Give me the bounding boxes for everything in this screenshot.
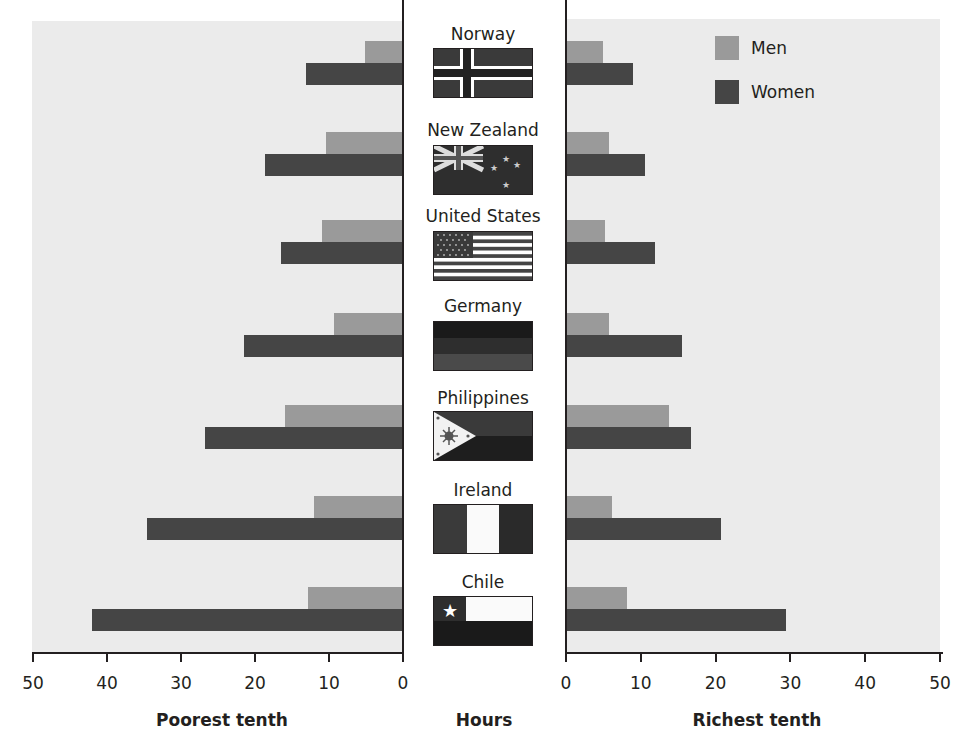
poorest-tenth-axis-title: Poorest tenth (156, 710, 288, 730)
bar-norway-poorest-men (365, 41, 403, 63)
bar-norway-richest-women (566, 63, 633, 85)
tick-mark (789, 652, 791, 662)
tick-mark (32, 652, 34, 662)
bar-ireland-poorest-women (147, 518, 403, 540)
bar-united-states-richest-women (566, 242, 655, 264)
svg-text:★: ★ (502, 180, 510, 190)
bar-new-zealand-richest-women (566, 154, 645, 176)
tick-label: 10 (309, 673, 349, 693)
bar-germany-richest-women (566, 335, 682, 357)
bar-new-zealand-poorest-men (326, 132, 403, 154)
bar-norway-poorest-women (306, 63, 403, 85)
ireland-flag-icon (433, 504, 533, 554)
country-label-germany: Germany (418, 296, 548, 316)
tick-mark (180, 652, 182, 662)
new-zealand-flag-icon: ★★★★ (433, 145, 533, 195)
tick-mark (565, 652, 567, 662)
bar-germany-richest-men (566, 313, 609, 335)
left-x-axis (34, 652, 404, 654)
svg-text:★: ★ (442, 600, 458, 621)
tick-label: 0 (383, 673, 423, 693)
tick-label: 20 (235, 673, 275, 693)
bar-ireland-richest-women (566, 518, 721, 540)
tick-label: 10 (621, 673, 661, 693)
tick-mark (939, 652, 941, 662)
tick-mark (254, 652, 256, 662)
tick-label: 50 (920, 673, 960, 693)
legend-swatch-women (715, 80, 739, 104)
legend-item-men: Men (715, 36, 787, 60)
svg-text:★: ★ (502, 154, 510, 164)
bar-chile-poorest-women (92, 609, 403, 631)
country-label-chile: Chile (418, 572, 548, 592)
tick-label: 0 (546, 673, 586, 693)
bar-united-states-poorest-women (281, 242, 403, 264)
richest-tenth-axis-title: Richest tenth (693, 710, 822, 730)
tick-label: 50 (13, 673, 53, 693)
right-x-axis (565, 652, 943, 654)
legend-label-women: Women (751, 82, 815, 102)
bar-germany-poorest-women (244, 335, 403, 357)
bar-germany-poorest-men (334, 313, 403, 335)
tick-label: 20 (696, 673, 736, 693)
legend-label-men: Men (751, 38, 787, 58)
legend-item-women: Women (715, 80, 815, 104)
bar-philippines-poorest-men (285, 405, 403, 427)
legend-swatch-men (715, 36, 739, 60)
bar-chile-richest-men (566, 587, 627, 609)
svg-text:★: ★ (513, 160, 521, 170)
bar-chile-poorest-men (308, 587, 403, 609)
tick-mark (328, 652, 330, 662)
chile-flag-icon: ★ (433, 596, 533, 646)
bar-united-states-poorest-men (322, 220, 403, 242)
bar-philippines-richest-women (566, 427, 691, 449)
tick-mark (640, 652, 642, 662)
bar-ireland-richest-men (566, 496, 612, 518)
tick-label: 30 (161, 673, 201, 693)
country-label-ireland: Ireland (418, 480, 548, 500)
tick-mark (864, 652, 866, 662)
hours-axis-title: Hours (456, 710, 513, 730)
country-label-norway: Norway (418, 24, 548, 44)
right-panel-zero-axis (565, 0, 567, 662)
svg-text:★: ★ (490, 163, 498, 173)
tick-mark (715, 652, 717, 662)
bar-philippines-richest-men (566, 405, 669, 427)
country-label-united-states: United States (418, 206, 548, 226)
country-label-philippines: Philippines (418, 388, 548, 408)
left-panel-zero-axis (402, 0, 404, 662)
norway-flag-icon (433, 48, 533, 98)
philippines-flag-icon (433, 411, 533, 461)
bar-united-states-richest-men (566, 220, 605, 242)
country-label-new-zealand: New Zealand (418, 120, 548, 140)
germany-flag-icon (433, 321, 533, 371)
tick-mark (402, 652, 404, 662)
bar-chile-richest-women (566, 609, 786, 631)
bar-philippines-poorest-women (205, 427, 403, 449)
bar-new-zealand-poorest-women (265, 154, 403, 176)
tick-mark (106, 652, 108, 662)
united-states-flag-icon (433, 231, 533, 281)
bar-norway-richest-men (566, 41, 603, 63)
bar-new-zealand-richest-men (566, 132, 609, 154)
tick-label: 30 (770, 673, 810, 693)
tick-label: 40 (845, 673, 885, 693)
tick-label: 40 (87, 673, 127, 693)
bar-ireland-poorest-men (314, 496, 403, 518)
